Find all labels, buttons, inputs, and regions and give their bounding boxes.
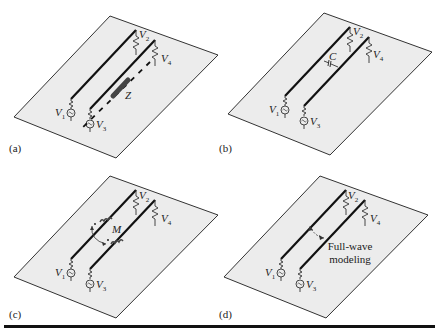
v1-sub: 1 [276,110,280,118]
label-v2: V2 [353,25,363,40]
v3-text: V [310,115,317,127]
label-v3: V3 [96,118,106,133]
v1-text: V [269,103,276,115]
label-v4: V4 [161,212,171,227]
v1-text: V [55,266,62,278]
label-v2: V2 [139,189,149,204]
v4-text: V [370,212,377,224]
bottom-rule [4,325,435,328]
v4-sub: 4 [168,219,172,227]
v1-text: V [55,106,62,118]
v3-text: V [96,118,103,130]
note-line-2: modeling [320,253,380,266]
note-line-1: Full-wave [320,240,380,253]
v2-text: V [139,28,146,40]
v3-text: V [306,278,313,290]
v1-sub: 1 [62,113,66,121]
v4-sub: 4 [168,59,172,67]
v1-sub: 1 [272,273,276,281]
v4-text: V [161,212,168,224]
v2-sub: 2 [360,32,364,40]
v2-text: V [139,189,146,201]
v4-sub: 4 [380,55,384,63]
v4-text: V [373,48,380,60]
v2-sub: 2 [146,35,150,43]
v3-sub: 3 [317,122,321,130]
v3-text: V [96,278,103,290]
panel-d-full-wave: V2 V4 V1 V3 Full-wave modeling (d) [220,165,439,330]
v2-text: V [348,189,355,201]
v2-sub: 2 [146,196,150,204]
panel-a-common-impedance: V2 V4 V1 V3 Z (a) [0,0,220,165]
v2-text: V [353,25,360,37]
label-v4: V4 [370,212,380,227]
coupling-label-c: C [329,50,336,62]
label-v3: V3 [306,278,316,293]
label-v4: V4 [161,52,171,67]
v3-sub: 3 [103,125,107,133]
caption-a: (a) [9,142,21,154]
panel-c-drawing [0,160,220,325]
panel-c-inductive: V2 V4 V1 V3 M (c) [0,165,220,330]
coupling-label-z: Z [125,89,131,101]
label-v3: V3 [310,115,320,130]
v4-text: V [161,52,168,64]
coupling-label-m: M [112,223,121,235]
caption-d: (d) [219,308,232,320]
v3-sub: 3 [103,285,107,293]
v4-sub: 4 [377,219,381,227]
label-v2: V2 [348,189,358,204]
v3-sub: 3 [313,285,317,293]
v1-text: V [265,266,272,278]
v2-sub: 2 [355,196,359,204]
label-v4: V4 [373,48,383,63]
caption-c: (c) [9,308,21,320]
label-v1: V1 [55,266,65,281]
v1-sub: 1 [62,273,66,281]
label-v1: V1 [265,266,275,281]
label-v1: V1 [269,103,279,118]
panel-b-drawing [214,0,434,162]
caption-b: (b) [219,142,232,154]
label-v3: V3 [96,278,106,293]
label-v2: V2 [139,28,149,43]
label-v1: V1 [55,106,65,121]
panel-a-drawing [0,0,220,165]
panel-b-capacitive: V2 V4 V1 V3 C (b) [220,0,439,165]
full-wave-modeling-note: Full-wave modeling [320,240,380,266]
